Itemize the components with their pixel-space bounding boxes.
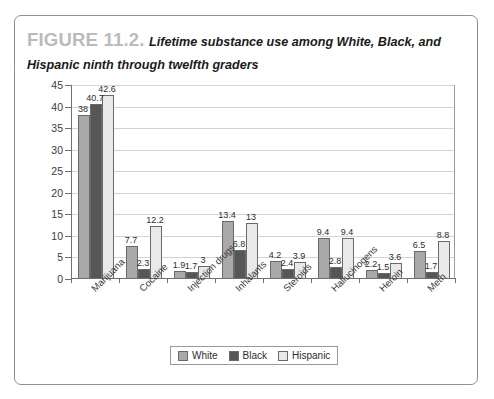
x-axis-tick <box>71 278 72 283</box>
y-axis-tick <box>65 150 71 151</box>
y-axis-tick <box>65 128 71 129</box>
bar-value-label: 1.5 <box>377 262 390 272</box>
bar-value-label: 7.7 <box>125 235 138 245</box>
bar-value-label: 2.2 <box>365 259 378 269</box>
figure-frame: FIGURE 11.2. Lifetime substance use amon… <box>14 15 478 385</box>
legend-item: Black <box>229 350 267 361</box>
bar-value-label: 4.2 <box>269 250 282 260</box>
bar-value-label: 38 <box>78 104 88 114</box>
y-axis-tick <box>65 257 71 258</box>
y-axis-tick <box>65 107 71 108</box>
legend-swatch-icon <box>178 351 188 361</box>
bar-value-label: 9.4 <box>317 227 330 237</box>
gridline <box>72 150 454 151</box>
bar-value-label: 6.5 <box>413 240 426 250</box>
legend-item-label: White <box>192 350 218 361</box>
bar-chart: 051015202530354045 3840.742.6Marijuana7.… <box>15 16 479 386</box>
bar-value-label: 13.4 <box>218 210 236 220</box>
plot-area <box>71 85 455 279</box>
chart-legend: WhiteBlackHispanic <box>170 346 338 365</box>
gridline <box>72 214 454 215</box>
bar-value-label: 1.7 <box>425 261 438 271</box>
y-axis-tick <box>65 236 71 237</box>
legend-item-label: Black <box>243 350 267 361</box>
y-axis-tick-label: 40 <box>17 101 63 113</box>
y-axis-tick <box>65 193 71 194</box>
gridline <box>72 107 454 108</box>
x-axis-tick <box>119 278 120 283</box>
y-axis-tick-label: 10 <box>17 230 63 242</box>
gridline <box>72 193 454 194</box>
bar-value-label: 2.4 <box>281 258 294 268</box>
x-axis-tick <box>215 278 216 283</box>
y-axis-labels: 051015202530354045 <box>15 16 63 386</box>
y-axis-tick-label: 35 <box>17 122 63 134</box>
bar <box>102 95 114 279</box>
y-axis-tick-label: 25 <box>17 165 63 177</box>
bar-value-label: 1.9 <box>173 260 186 270</box>
gridline <box>72 128 454 129</box>
y-axis-tick-label: 45 <box>17 79 63 91</box>
bar-value-label: 1.7 <box>185 261 198 271</box>
y-axis-tick-label: 20 <box>17 187 63 199</box>
gridline <box>72 85 454 86</box>
bar-value-label: 3 <box>201 255 206 265</box>
legend-item: White <box>178 350 218 361</box>
y-axis-tick-label: 0 <box>17 273 63 285</box>
x-axis-tick <box>263 278 264 283</box>
legend-swatch-icon <box>229 351 239 361</box>
bar <box>78 115 90 279</box>
bar-value-label: 12.2 <box>146 215 164 225</box>
x-axis-tick <box>311 278 312 283</box>
bar-value-label: 9.4 <box>341 227 354 237</box>
x-axis-tick <box>407 278 408 283</box>
bar-value-label: 8.8 <box>437 230 450 240</box>
bar-value-label: 42.6 <box>98 84 116 94</box>
bar-value-label: 3.6 <box>389 252 402 262</box>
x-axis-tick <box>359 278 360 283</box>
y-axis-tick-label: 5 <box>17 251 63 263</box>
bar-value-label: 2.8 <box>329 256 342 266</box>
y-axis-tick-label: 15 <box>17 208 63 220</box>
bar-value-label: 13 <box>246 212 256 222</box>
x-axis-tick <box>455 278 456 283</box>
y-axis-tick <box>65 85 71 86</box>
x-axis-tick <box>167 278 168 283</box>
bar-value-label: 3.9 <box>293 251 306 261</box>
y-axis-tick-label: 30 <box>17 144 63 156</box>
y-axis-tick <box>65 171 71 172</box>
bar-value-label: 6.8 <box>233 239 246 249</box>
legend-swatch-icon <box>278 351 288 361</box>
bar <box>90 104 102 279</box>
y-axis-tick <box>65 214 71 215</box>
legend-item: Hispanic <box>278 350 330 361</box>
bar-value-label: 2.3 <box>137 258 150 268</box>
legend-item-label: Hispanic <box>292 350 330 361</box>
gridline <box>72 171 454 172</box>
